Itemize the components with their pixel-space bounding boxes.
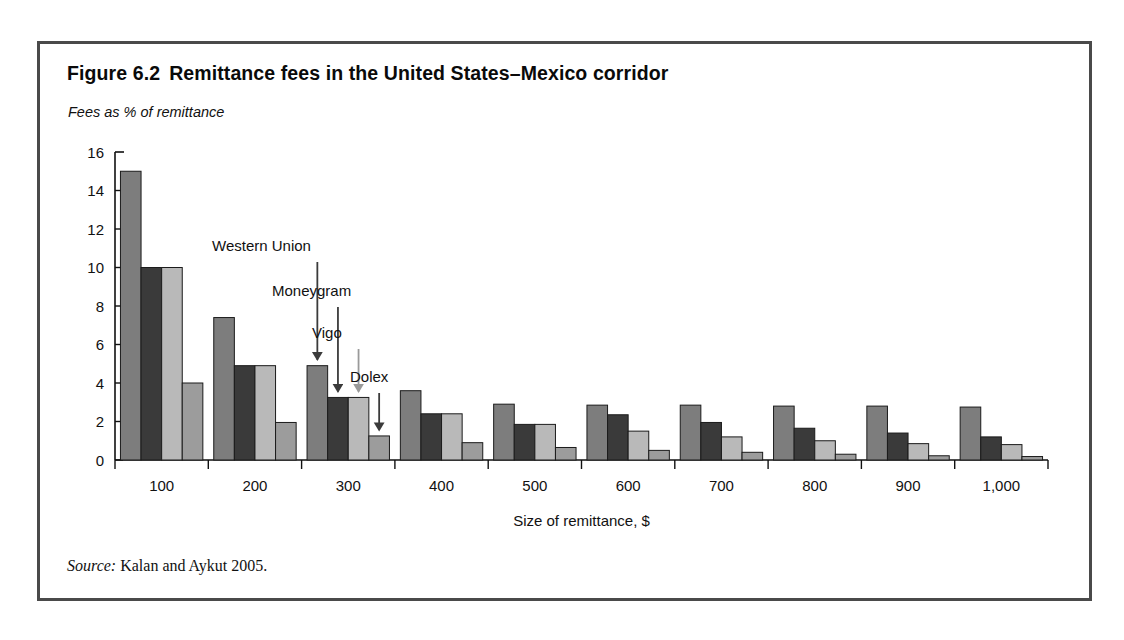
bar-moneygram-200 [234,366,255,460]
plot-area: 0246810121416100200300400500600700800900… [40,44,1089,598]
bar-western-union-800 [774,406,795,460]
x-tick-label: 1,000 [983,477,1021,494]
annotation-label-moneygram: Moneygram [272,282,351,299]
bar-vigo-400 [442,414,463,460]
bar-chart: 0246810121416100200300400500600700800900… [40,44,1089,598]
bar-dolex-100 [182,383,203,460]
bar-western-union-300 [307,366,328,460]
annotation-label-vigo: Vigo [312,324,342,341]
bar-moneygram-500 [514,424,535,460]
y-tick-label: 10 [87,259,104,276]
y-tick-label: 14 [87,182,104,199]
bar-dolex-900 [929,456,950,460]
y-tick-label: 4 [96,375,104,392]
x-tick-label: 200 [242,477,267,494]
bar-vigo-600 [628,431,649,460]
x-tick-label: 500 [522,477,547,494]
bar-vigo-1,000 [1001,445,1022,460]
x-tick-label: 400 [429,477,454,494]
bar-moneygram-800 [794,428,815,460]
bar-vigo-700 [721,437,742,460]
bar-western-union-900 [867,406,888,460]
bar-moneygram-700 [701,422,722,460]
bar-vigo-800 [815,441,836,460]
x-tick-label: 600 [616,477,641,494]
bar-western-union-200 [214,318,235,460]
bar-dolex-500 [555,447,576,460]
annotation-label-western-union: Western Union [212,237,311,254]
source-text: Kalan and Aykut 2005. [120,557,267,574]
figure-page: Figure 6.2Remittance fees in the United … [0,0,1124,640]
bar-vigo-900 [908,444,929,460]
y-tick-label: 12 [87,221,104,238]
source-note: Source: Kalan and Aykut 2005. [67,557,267,575]
bar-moneygram-900 [887,433,908,460]
bar-western-union-600 [587,405,608,460]
x-tick-label: 900 [896,477,921,494]
bar-moneygram-600 [608,415,629,460]
bar-dolex-200 [276,422,297,460]
bar-western-union-1,000 [960,407,981,460]
y-tick-label: 16 [87,144,104,161]
figure-frame: Figure 6.2Remittance fees in the United … [37,41,1092,601]
x-tick-label: 800 [802,477,827,494]
bar-western-union-100 [120,171,141,460]
source-label: Source: [67,557,116,574]
y-tick-label: 2 [96,413,104,430]
bar-western-union-400 [400,391,421,460]
bar-vigo-500 [535,424,556,460]
bar-dolex-600 [649,450,670,460]
x-tick-label: 100 [149,477,174,494]
bar-western-union-500 [494,404,515,460]
x-tick-label: 300 [336,477,361,494]
bar-moneygram-300 [328,397,349,460]
bar-moneygram-400 [421,414,442,460]
bar-vigo-300 [348,397,369,460]
bar-dolex-1,000 [1022,457,1043,460]
bar-moneygram-100 [141,268,162,461]
bar-dolex-800 [835,454,856,460]
x-axis-title: Size of remittance, $ [513,512,650,529]
bar-vigo-200 [255,366,276,460]
bar-dolex-700 [742,452,763,460]
y-tick-label: 8 [96,298,104,315]
y-tick-label: 0 [96,452,104,469]
x-tick-label: 700 [709,477,734,494]
bar-western-union-700 [680,405,701,460]
bar-vigo-100 [162,268,183,461]
bar-dolex-300 [369,436,390,460]
bar-dolex-400 [462,443,483,460]
annotation-label-dolex: Dolex [350,368,389,385]
bar-moneygram-1,000 [981,437,1002,460]
y-tick-label: 6 [96,336,104,353]
